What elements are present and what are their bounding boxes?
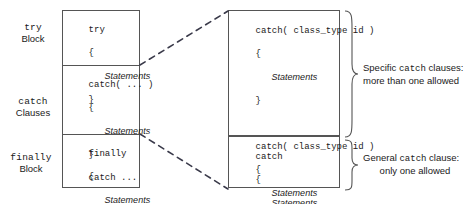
note-line-1: General catch clause: [363,152,467,165]
general-catch-code: catch { Statements } [234,140,317,204]
code-line: { [89,48,94,58]
connector-try-to-specific [140,11,228,65]
specific-catch-note: Specific catch clauses: more than one al… [363,62,467,87]
finally-segment-code: finally { Statements } [67,137,150,204]
code-line: catch [256,152,283,162]
note-text: General [363,152,399,163]
connector-catch-to-specific [140,11,228,65]
label-catch-sub: Clauses [4,107,62,118]
label-catch-clauses: catch Clauses [4,96,62,118]
code-line: { [89,103,94,113]
note-keyword: catch [399,154,426,164]
label-finally-sub: Block [2,163,60,174]
code-line: catch( ... ) [89,80,154,90]
note-keyword: catch [399,64,426,74]
label-catch-keyword: catch [4,96,62,107]
code-line: { [89,172,94,182]
note-text: Specific [363,62,399,73]
label-try-sub: Block [4,33,62,44]
code-line: try [89,25,105,35]
code-line: } [256,96,261,106]
diagram-canvas: try Block catch Clauses finally Block tr… [0,0,469,204]
code-line: { [256,49,261,59]
brace-specific-catch [343,8,359,140]
code-line-statements: Statements [105,195,151,205]
code-line: finally [89,149,127,159]
code-line-statements: Statements [272,198,318,205]
label-finally-keyword: finally [2,152,60,163]
note-line-1: Specific catch clauses: [363,62,467,75]
note-line-2: only one allowed [363,165,467,177]
code-line-statements: Statements [105,126,151,136]
label-finally-block: finally Block [2,152,60,174]
brace-general-catch [343,138,359,192]
note-line-2: more than one allowed [363,75,467,87]
note-text: clause: [426,152,459,163]
code-line: { [256,175,261,185]
code-line-statements: Statements [272,72,318,82]
note-text: clauses: [426,62,464,73]
general-catch-note: General catch clause: only one allowed [363,152,467,177]
label-try-keyword: try [4,22,62,33]
label-try-block: try Block [4,22,62,44]
